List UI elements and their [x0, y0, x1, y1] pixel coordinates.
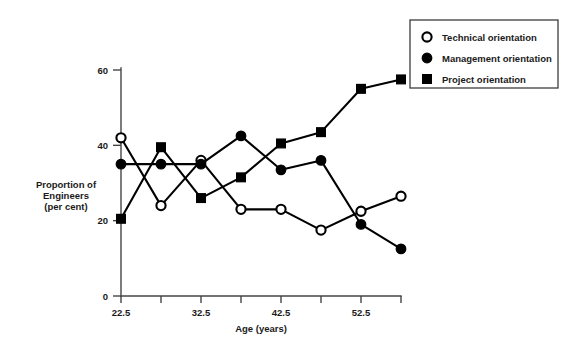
data-point-marker: [356, 220, 366, 230]
data-point-marker: [276, 205, 285, 214]
x-axis-ticks: 22.532.542.552.5: [112, 296, 401, 318]
data-point-marker: [236, 205, 245, 214]
legend-marker-filled-square: [423, 75, 432, 84]
x-tick-label: 32.5: [192, 307, 211, 318]
legend-label: Management orientation: [442, 53, 552, 64]
data-series: [121, 136, 401, 249]
data-point-marker: [196, 159, 206, 169]
legend-label: Project orientation: [442, 74, 526, 85]
y-axis-label-line-3: (per cent): [44, 201, 87, 212]
data-point-marker: [316, 225, 325, 234]
legend-label: Technical orientation: [442, 32, 537, 43]
data-point-marker: [156, 159, 166, 169]
data-point-marker: [317, 128, 326, 137]
data-point-marker: [156, 201, 165, 210]
legend-marker-filled-circle: [422, 53, 432, 63]
data-point-marker: [316, 156, 326, 166]
data-point-marker: [197, 194, 206, 203]
series-line: [121, 136, 401, 249]
data-point-marker: [116, 133, 125, 142]
x-axis-title: Age (years): [235, 323, 287, 334]
data-point-marker: [396, 192, 405, 201]
line-chart: Proportion of Engineers (per cent) 02040…: [0, 0, 569, 347]
y-axis-label-group: Proportion of Engineers (per cent): [36, 179, 97, 212]
y-axis-ticks: 0204060: [97, 65, 121, 302]
data-point-marker: [276, 165, 286, 175]
y-tick-label: 20: [97, 215, 108, 226]
x-tick-label: 22.5: [112, 307, 131, 318]
data-point-marker: [236, 131, 246, 141]
data-point-marker: [396, 244, 406, 254]
data-point-marker: [116, 159, 126, 169]
data-point-marker: [117, 214, 126, 223]
y-tick-label: 0: [103, 291, 108, 302]
data-point-marker: [356, 207, 365, 216]
axes: [121, 68, 401, 296]
data-point-marker: [277, 139, 286, 148]
data-point-marker: [157, 143, 166, 152]
data-point-marker: [397, 75, 406, 84]
y-tick-label: 60: [97, 65, 108, 76]
x-tick-label: 52.5: [352, 307, 371, 318]
chart-page: Proportion of Engineers (per cent) 02040…: [0, 0, 569, 347]
data-point-marker: [237, 173, 246, 182]
legend-marker-open-circle: [422, 32, 431, 41]
y-axis-label-line-1: Proportion of: [36, 179, 97, 190]
y-tick-label: 40: [97, 140, 108, 151]
x-tick-label: 42.5: [272, 307, 291, 318]
y-axis-label-line-2: Engineers: [43, 190, 89, 201]
data-point-marker: [357, 84, 366, 93]
legend: Technical orientationManagement orientat…: [410, 20, 558, 88]
data-series-group: [116, 75, 406, 254]
